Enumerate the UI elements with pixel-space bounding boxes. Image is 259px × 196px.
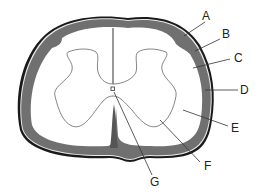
label-b: B xyxy=(222,27,230,41)
label-g: G xyxy=(150,175,159,189)
label-e: E xyxy=(231,121,239,135)
label-f: F xyxy=(204,159,211,173)
label-c: C xyxy=(234,51,243,65)
spinal-cord-diagram: A B C D E F G xyxy=(0,0,259,196)
central-canal xyxy=(111,87,115,91)
label-d: D xyxy=(240,83,249,97)
label-a: A xyxy=(202,9,210,23)
